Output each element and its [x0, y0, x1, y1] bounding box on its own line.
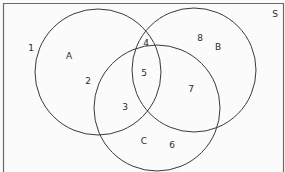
region-7-label: 7	[188, 85, 194, 94]
region-8-label: 8	[197, 34, 203, 43]
set-c-label: C	[141, 137, 147, 146]
set-a-label: A	[66, 52, 72, 61]
set-b-label: B	[215, 43, 221, 52]
universal-set-label: S	[272, 10, 278, 19]
region-6-label: 6	[169, 141, 175, 150]
venn-canvas	[0, 0, 285, 172]
region-5-label: 5	[141, 69, 147, 78]
set-c-circle	[94, 45, 220, 171]
region-3-label: 3	[122, 103, 128, 112]
region-4-label: 4	[143, 39, 149, 48]
set-b-circle	[132, 8, 256, 132]
region-2-label: 2	[85, 77, 91, 86]
region-1-label: 1	[28, 44, 34, 53]
venn-diagram: S A B C 1 2 3 4 5 6 7 8	[0, 0, 285, 172]
